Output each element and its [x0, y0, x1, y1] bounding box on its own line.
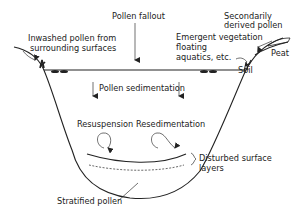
label-resedimentation: Resedimentation	[136, 119, 205, 129]
label-secondary-line2: derived pollen	[224, 20, 283, 30]
disturbed-layer-top	[87, 154, 186, 162]
label-emergent-line3: aquatics, etc.	[176, 52, 231, 62]
label-pollen-fallout: Pollen fallout	[112, 11, 166, 21]
label-disturbed-line1: Disturbed surface	[199, 153, 272, 163]
label-emergent-line2: floating	[176, 42, 207, 52]
label-stratified: Stratified pollen	[57, 196, 122, 206]
label-disturbed-line2: layers	[199, 163, 224, 173]
label-peat: Peat	[271, 48, 290, 58]
floating-vegetation-icon	[200, 70, 208, 73]
label-pollen-sedimentation: Pollen sedimentation	[99, 83, 185, 93]
pollen-deposition-diagram: Pollen fallout Inwashed pollen from surr…	[0, 0, 293, 217]
floating-vegetation-icon	[51, 70, 59, 73]
label-inwashed-line1: Inwashed pollen from	[28, 33, 116, 43]
circular-arrow-icon	[151, 133, 175, 148]
floating-vegetation-icon	[60, 70, 68, 73]
label-emergent-line1: Emergent vegetation	[176, 32, 263, 42]
brace-icon	[191, 153, 196, 165]
label-inwashed-line2: surrounding surfaces	[30, 43, 116, 53]
circular-arrow-icon	[97, 133, 110, 148]
soil-pointer	[236, 58, 247, 62]
label-resuspension: Resuspension	[77, 119, 133, 129]
label-soil: Soil	[238, 65, 253, 75]
floating-vegetation-icon	[209, 70, 217, 73]
disturbed-layer-bottom	[89, 165, 184, 170]
